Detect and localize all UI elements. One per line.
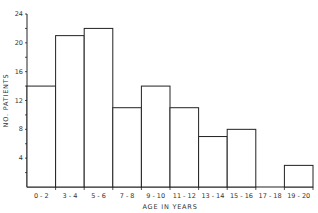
x-tick-label: 9 - 10 [146,192,165,200]
bar-3-4 [56,36,85,187]
bar-7-8 [113,108,142,187]
x-tick-label: 13 - 14 [201,192,224,200]
bar-15-16 [227,129,256,187]
x-axis-label: AGE IN YEARS [142,203,197,211]
x-tick-label: 7 - 8 [120,192,135,200]
y-axis-label: NO. PATIENTS [2,74,10,128]
bar-13-14 [199,137,228,187]
y-tick-label: 24 [15,10,23,18]
y-tick-label: 4 [19,154,23,162]
bar-5-6 [84,28,113,187]
y-tick-label: 12 [15,97,23,105]
x-tick-label: 19 - 20 [287,192,310,200]
y-tick-label: 20 [15,39,23,47]
bar-9-10 [141,86,170,187]
y-tick-label: 8 [19,125,23,133]
bar-0-2 [27,86,56,187]
x-tick-label: 0 - 2 [34,192,49,200]
x-tick-label: 3 - 4 [63,192,78,200]
x-tick-label: 5 - 6 [91,192,106,200]
x-tick-label: 15 - 16 [230,192,253,200]
bar-11-12 [170,108,199,187]
y-tick-label: 16 [15,68,23,76]
x-tick-label: 17 - 18 [259,192,282,200]
histogram-chart: 48121620240 - 23 - 45 - 67 - 89 - 1011 -… [0,0,318,213]
x-tick-label: 11 - 12 [173,192,196,200]
bar-19-20 [284,165,313,187]
